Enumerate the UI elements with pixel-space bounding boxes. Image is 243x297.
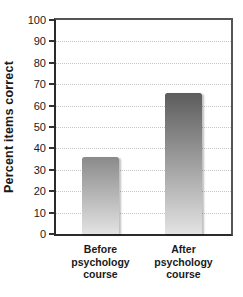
y-tick-mark (49, 19, 54, 21)
gridline (56, 148, 231, 149)
y-tick-mark (49, 169, 54, 171)
bar-chart-figure: Percent items correct 010203040506070809… (0, 0, 243, 297)
bar-before-psychology-course (82, 157, 119, 234)
y-tick-label: 80 (12, 57, 46, 69)
x-category-label: Before psychology course (69, 243, 133, 281)
y-tick-mark (49, 62, 54, 64)
y-tick-label: 20 (12, 185, 46, 197)
y-tick-mark (49, 212, 54, 214)
y-tick-label: 40 (12, 142, 46, 154)
gridline (56, 127, 231, 128)
gridline (56, 84, 231, 85)
y-tick-label: 10 (12, 207, 46, 219)
gridline (56, 63, 231, 64)
y-tick-mark (49, 190, 54, 192)
y-tick-mark (49, 126, 54, 128)
y-tick-label: 60 (12, 100, 46, 112)
bar-after-psychology-course (165, 93, 202, 234)
y-tick-label: 0 (12, 228, 46, 240)
y-tick-label: 100 (12, 14, 46, 26)
x-category-label: After psychology course (152, 243, 216, 281)
plot-area (54, 18, 233, 236)
y-tick-label: 70 (12, 78, 46, 90)
gridline (56, 41, 231, 42)
y-tick-mark (49, 233, 54, 235)
y-tick-mark (49, 83, 54, 85)
y-tick-label: 50 (12, 121, 46, 133)
y-tick-mark (49, 147, 54, 149)
y-tick-label: 30 (12, 164, 46, 176)
gridline (56, 106, 231, 107)
y-tick-mark (49, 105, 54, 107)
y-tick-mark (49, 40, 54, 42)
y-tick-label: 90 (12, 35, 46, 47)
